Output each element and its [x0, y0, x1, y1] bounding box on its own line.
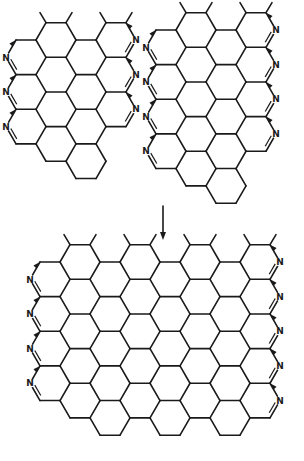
- bond: [206, 82, 216, 99]
- bond: [240, 262, 250, 279]
- bond: [206, 99, 216, 116]
- nitrogen-atom-label: N: [272, 94, 280, 104]
- right-nanoribbon-fragment: NNNNNNNN: [142, 3, 281, 204]
- bond: [210, 383, 220, 400]
- bond: [120, 383, 130, 400]
- bond: [240, 245, 250, 262]
- bond: [150, 366, 160, 383]
- bond: [60, 401, 70, 418]
- terminal-bond-stub: [270, 235, 276, 245]
- bond: [176, 117, 186, 134]
- bond: [210, 245, 220, 262]
- nitrogen-atom-label: N: [276, 326, 284, 336]
- bond: [120, 297, 130, 314]
- bond: [236, 151, 246, 168]
- bond: [60, 366, 70, 383]
- terminal-bond-stub: [126, 13, 132, 23]
- bond: [90, 279, 100, 296]
- bond: [60, 331, 70, 348]
- bond: [210, 331, 220, 348]
- nitrogen-atom-label: N: [132, 70, 140, 80]
- bond: [236, 99, 246, 116]
- terminal-bond-stub: [100, 13, 106, 23]
- bond: [120, 418, 130, 435]
- bond: [240, 418, 250, 435]
- bond: [150, 314, 160, 331]
- bond: [150, 331, 160, 348]
- bond: [36, 144, 46, 161]
- bond: [66, 23, 76, 40]
- nitrogen-atom-label: N: [272, 129, 280, 139]
- bond: [236, 13, 246, 30]
- bond: [96, 109, 106, 126]
- bond: [176, 47, 186, 64]
- bond: [206, 134, 216, 151]
- bond: [66, 40, 76, 57]
- bond: [90, 314, 100, 331]
- bond: [176, 65, 186, 82]
- bond: [36, 127, 46, 144]
- bond: [240, 401, 250, 418]
- bond: [36, 57, 46, 74]
- bond: [90, 418, 100, 435]
- bond: [236, 117, 246, 134]
- terminal-bond-stub: [266, 3, 272, 13]
- bond: [236, 30, 246, 47]
- left-nanoribbon-fragment: NNNNNN: [2, 13, 141, 179]
- bond: [210, 279, 220, 296]
- bond: [66, 161, 76, 178]
- bond: [180, 297, 190, 314]
- nitrogen-atom-label: N: [26, 344, 34, 354]
- bond: [180, 349, 190, 366]
- bond: [210, 401, 220, 418]
- bond: [206, 151, 216, 168]
- nitrogen-atom-label: N: [2, 122, 10, 132]
- bond: [240, 331, 250, 348]
- bond: [90, 383, 100, 400]
- bond: [240, 383, 250, 400]
- bond: [96, 23, 106, 40]
- nitrogen-atom-label: N: [142, 43, 150, 53]
- bond: [60, 383, 70, 400]
- bond: [120, 245, 130, 262]
- reaction-diagram: NNNNNN NNNNNNNN NNNNNNNNN: [0, 0, 304, 461]
- bond: [176, 134, 186, 151]
- bond: [236, 47, 246, 64]
- terminal-bond-stub: [210, 235, 216, 245]
- bond: [36, 92, 46, 109]
- fused-nanoribbon-product: NNNNNNNNN: [26, 235, 285, 436]
- bond: [176, 13, 186, 30]
- bond: [176, 99, 186, 116]
- bond: [90, 349, 100, 366]
- bond: [210, 297, 220, 314]
- terminal-bond-stub: [244, 235, 250, 245]
- bond: [60, 262, 70, 279]
- bond: [210, 366, 220, 383]
- nitrogen-atom-label: N: [26, 378, 34, 388]
- bond: [120, 314, 130, 331]
- bond: [66, 57, 76, 74]
- bond: [96, 161, 106, 178]
- bond: [36, 23, 46, 40]
- bond: [150, 418, 160, 435]
- nitrogen-atom-label: N: [276, 396, 284, 406]
- bond: [120, 331, 130, 348]
- terminal-bond-stub: [150, 235, 156, 245]
- bond: [96, 57, 106, 74]
- bond: [90, 401, 100, 418]
- bond: [180, 418, 190, 435]
- bond: [206, 169, 216, 186]
- bond: [60, 349, 70, 366]
- bond: [180, 262, 190, 279]
- bond: [240, 314, 250, 331]
- nitrogen-atom-label: N: [132, 35, 140, 45]
- bond: [206, 117, 216, 134]
- bond: [66, 92, 76, 109]
- bond: [206, 13, 216, 30]
- terminal-bond-stub: [64, 235, 70, 245]
- bond: [180, 245, 190, 262]
- terminal-bond-stub: [180, 3, 186, 13]
- bond: [90, 245, 100, 262]
- bond: [176, 82, 186, 99]
- nitrogen-atom-label: N: [142, 146, 150, 156]
